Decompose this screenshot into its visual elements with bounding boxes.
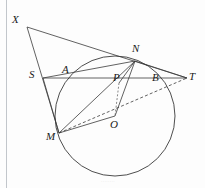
watermark-text: ········: [78, 179, 138, 184]
segment-M-T-dashed: [59, 78, 187, 133]
segment-S-M: [43, 78, 59, 133]
point-label-X: X: [12, 14, 19, 25]
point-label-M: M: [46, 131, 55, 142]
point-label-A: A: [62, 64, 69, 75]
point-label-N: N: [132, 43, 139, 54]
segment-M-N: [59, 61, 135, 133]
point-label-B: B: [152, 72, 159, 83]
point-label-S: S: [29, 69, 35, 80]
point-label-O: O: [110, 119, 118, 130]
segment-S-N: [43, 61, 135, 78]
point-label-P: P: [113, 72, 120, 83]
point-label-T: T: [189, 71, 195, 82]
segment-N-P: [119, 61, 135, 83]
geometry-canvas: [0, 0, 205, 188]
segment-N-T: [135, 61, 187, 78]
geometry-figure: X S A N P B T M O ········: [0, 0, 205, 188]
